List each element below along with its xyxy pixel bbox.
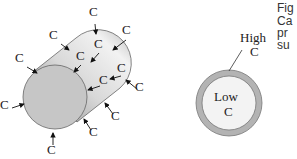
- caption-line-1: Fig: [277, 1, 294, 15]
- concentration-label: C: [0, 97, 9, 112]
- high-label: High: [240, 30, 267, 45]
- low-c-label: C: [224, 104, 233, 119]
- diffusion-diagram: CCCCCCCCCCCCC High C Low C Fig Ca pr su: [0, 0, 297, 159]
- leader-line: [229, 50, 242, 71]
- concentration-label: C: [94, 36, 103, 51]
- low-label: Low: [214, 89, 238, 104]
- figure-caption: Fig Ca pr su: [277, 1, 294, 52]
- concentration-label: C: [76, 48, 85, 63]
- concentration-label: C: [15, 50, 24, 65]
- cylinder-end-face: [23, 65, 87, 129]
- concentration-label: C: [89, 4, 98, 19]
- arrow-icon: [12, 104, 24, 108]
- concentration-label: C: [117, 60, 126, 75]
- caption-line-4: su: [277, 38, 290, 52]
- concentration-label: C: [122, 22, 131, 37]
- concentration-label: C: [47, 142, 56, 157]
- concentration-label: C: [111, 108, 120, 123]
- concentration-label: C: [49, 27, 58, 42]
- concentration-label: C: [89, 124, 98, 139]
- concentration-label: C: [135, 79, 144, 94]
- cross-section: High C Low C: [196, 30, 267, 136]
- high-c-label: C: [250, 44, 259, 59]
- concentration-label: C: [99, 72, 108, 87]
